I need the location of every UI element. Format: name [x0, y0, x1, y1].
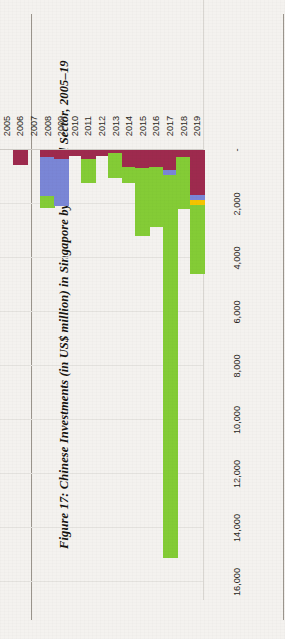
value-tick-label: 10,000	[232, 390, 242, 450]
chart-area: 2005200620072008200920102011201220132014…	[0, 0, 246, 600]
value-tick-label: 12,000	[232, 444, 242, 504]
bar-stack-2019[interactable]	[190, 150, 205, 274]
bar-series-group: 2005200620072008200920102011201220132014…	[0, 0, 204, 600]
chart-legend: OthersMetalsEnergyInfrastructure	[275, 0, 285, 545]
value-tick-label: 2,000	[232, 174, 242, 234]
bar-segment-energy[interactable]	[190, 195, 205, 199]
category-label-2019: 2019	[190, 96, 204, 156]
chart-plot: 2005200620072008200920102011201220132014…	[0, 0, 246, 600]
bar-segment-others[interactable]	[190, 205, 205, 275]
bar-segment-infrastructure[interactable]	[190, 150, 205, 195]
value-tick-label: 14,000	[232, 498, 242, 558]
value-tick-label: 8,000	[232, 336, 242, 396]
bar-row: 2019	[0, 0, 246, 600]
value-tick-label: 6,000	[232, 282, 242, 342]
figure-page: Figure 17: Chinese Investments (in US$ m…	[0, 0, 285, 639]
value-tick-label: -	[232, 120, 242, 180]
value-tick-label: 4,000	[232, 228, 242, 288]
bar-segment-metals[interactable]	[190, 200, 205, 205]
value-tick-label: 16,000	[232, 552, 242, 612]
